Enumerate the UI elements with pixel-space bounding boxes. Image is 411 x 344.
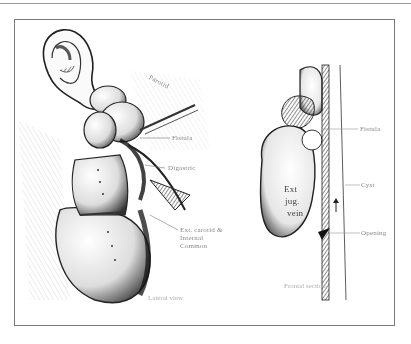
caption-left-panel: Lateral view — [148, 294, 183, 302]
label-ext: Ext — [284, 184, 297, 194]
label-digastric: Digastric — [168, 164, 195, 172]
caption-right-panel: Frontal section — [284, 282, 326, 290]
label-right-top: Fistula — [360, 125, 380, 133]
anatomical-illustration — [0, 0, 411, 344]
label-carotid-external: Ext. carotid & — [180, 226, 223, 234]
label-fistula: Fistula — [172, 134, 192, 142]
lower-neck-swelling — [56, 155, 150, 303]
label-right-middle: Cyst — [361, 181, 375, 189]
cross-section-drawing — [260, 65, 346, 300]
label-jug: jug. — [285, 196, 300, 206]
label-right-bottom: Opening — [361, 229, 387, 237]
label-carotid-common: Common — [180, 242, 207, 250]
label-carotid-internal: Internal — [180, 234, 203, 242]
label-vein: vein — [287, 208, 303, 218]
